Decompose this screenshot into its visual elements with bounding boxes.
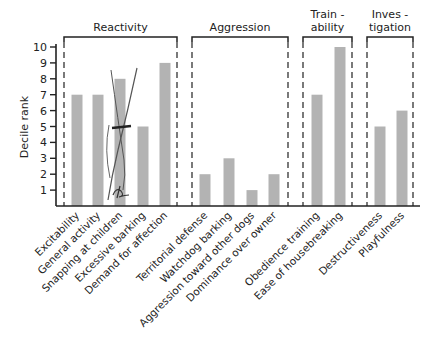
bar	[375, 127, 386, 207]
group-bracket	[303, 37, 352, 42]
group-bracket	[367, 37, 413, 42]
group-label: Train -	[310, 8, 345, 21]
group-label: Aggression	[210, 21, 271, 34]
bar	[224, 158, 235, 206]
y-tick-label: 5	[40, 121, 47, 134]
group-bracket	[64, 37, 177, 42]
group-bracket	[192, 37, 288, 42]
y-tick-label: 2	[40, 168, 47, 181]
bar	[269, 174, 280, 206]
y-axis-ticks: 12345678910	[33, 41, 56, 197]
y-tick-label: 1	[40, 184, 47, 197]
y-tick-label: 10	[33, 41, 47, 54]
bar	[247, 190, 258, 206]
y-tick-label: 7	[40, 89, 47, 102]
y-tick-label: 6	[40, 105, 47, 118]
group-label: ability	[311, 21, 345, 34]
x-axis-labels: ExcitabilityGeneral activitySnapping at …	[32, 208, 406, 328]
y-tick-label: 4	[40, 136, 47, 149]
y-tick-label: 3	[40, 152, 47, 165]
bar	[72, 95, 83, 206]
bar	[335, 47, 346, 206]
y-tick-label: 8	[40, 73, 47, 86]
y-axis-label: Decile rank	[18, 95, 31, 158]
bar	[200, 174, 211, 206]
y-tick-label: 9	[40, 57, 47, 70]
bar	[397, 111, 408, 206]
bar-chart: 12345678910 Decile rank ExcitabilityGene…	[0, 0, 440, 339]
bar	[160, 63, 171, 206]
group-label: tigation	[369, 21, 411, 34]
group-label: Inves -	[372, 8, 409, 21]
bar	[93, 95, 104, 206]
bar	[312, 95, 323, 206]
bar	[138, 127, 149, 207]
group-label: Reactivity	[93, 21, 148, 34]
group-labels: ReactivityAggressionTrain -abilityInves …	[93, 8, 411, 34]
